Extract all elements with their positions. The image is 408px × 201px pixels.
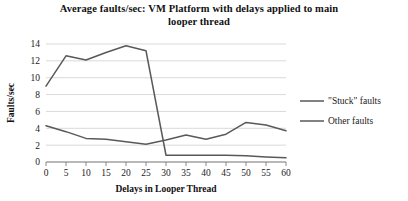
y-tick-label: 0 xyxy=(35,157,40,167)
x-tick-label: 55 xyxy=(261,168,271,178)
x-tick-label: 40 xyxy=(201,168,211,178)
x-axis-tick-labels: 051015202530354045505560 xyxy=(44,168,291,178)
legend-label-1: "Stuck" faults xyxy=(328,96,381,106)
legend-label-2: Other faults xyxy=(328,116,373,126)
y-tick-label: 8 xyxy=(35,90,40,100)
chart-plot: 02468101214 051015202530354045505560 "St… xyxy=(0,0,408,201)
x-tick-label: 5 xyxy=(64,168,69,178)
y-tick-label: 10 xyxy=(31,73,41,83)
x-tick-label: 35 xyxy=(181,168,191,178)
chart-container: Average faults/sec: VM Platform with del… xyxy=(0,0,408,201)
y-tick-label: 12 xyxy=(31,56,41,66)
gridlines xyxy=(46,44,286,162)
series-lines xyxy=(46,46,286,158)
x-tick-label: 30 xyxy=(161,168,171,178)
y-tick-label: 14 xyxy=(31,39,41,49)
x-tick-label: 60 xyxy=(281,168,291,178)
tick-marks xyxy=(46,162,286,166)
series-line-2 xyxy=(46,122,286,144)
chart-legend: "Stuck" faultsOther faults xyxy=(300,96,381,126)
y-tick-label: 6 xyxy=(35,107,40,117)
x-tick-label: 50 xyxy=(241,168,251,178)
x-tick-label: 0 xyxy=(44,168,49,178)
y-axis-title: Faults/sec xyxy=(6,83,16,123)
y-tick-label: 2 xyxy=(35,141,40,151)
x-tick-label: 20 xyxy=(121,168,131,178)
x-tick-label: 25 xyxy=(141,168,151,178)
y-axis-tick-labels: 02468101214 xyxy=(31,39,41,167)
series-line-1 xyxy=(46,46,286,158)
x-tick-label: 15 xyxy=(101,168,111,178)
y-tick-label: 4 xyxy=(35,124,40,134)
x-axis-title: Delays in Looper Thread xyxy=(115,184,217,194)
x-tick-label: 45 xyxy=(221,168,231,178)
x-tick-label: 10 xyxy=(81,168,91,178)
